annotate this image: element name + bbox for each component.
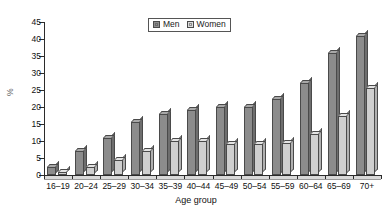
x-tick-label-50-54: 50–54 (243, 182, 267, 191)
x-tick-mark (213, 175, 214, 179)
bar-women-50-54 (254, 144, 263, 175)
bar-men-45-49 (216, 107, 225, 175)
bar-face (187, 110, 196, 175)
y-tick-label: 20 (32, 103, 41, 112)
y-axis-title: % (6, 88, 15, 96)
bar-face (75, 151, 84, 175)
bar-group-16-19 (44, 22, 72, 175)
x-tick-mark (72, 175, 73, 179)
bar-face (216, 107, 225, 175)
bar-group-65-69 (325, 22, 353, 175)
bar-face (170, 141, 179, 175)
x-tick-label-16-19: 16–19 (46, 182, 70, 191)
bar-face (198, 141, 207, 175)
x-tick-label-55-59: 55–59 (271, 182, 295, 191)
bar-men-50-54 (244, 107, 253, 175)
x-tick-label-65-69: 65–69 (327, 182, 351, 191)
bar-women-70+ (366, 88, 375, 175)
x-tick-label-40-44: 40–44 (187, 182, 211, 191)
x-tick-mark (297, 175, 298, 179)
y-tick-label: 5 (36, 154, 41, 163)
bar-face (254, 144, 263, 175)
bar-side (319, 128, 322, 172)
bar-men-40-44 (187, 110, 196, 175)
bar-women-25-29 (114, 160, 123, 175)
x-tick-mark (128, 175, 129, 179)
x-tick-mark (325, 175, 326, 179)
bar-face (310, 134, 319, 175)
x-tick-mark (381, 175, 382, 179)
plot-area: 051015202530354045 16–1920–2425–2930–343… (44, 22, 381, 175)
bar-face (159, 114, 168, 175)
bar-top (272, 96, 284, 99)
bar-men-35-39 (159, 114, 168, 175)
bar-face (338, 116, 347, 176)
x-tick-mark (353, 175, 354, 179)
x-tick-label-30-34: 30–34 (130, 182, 154, 191)
bar-face (103, 138, 112, 175)
bar-face (282, 143, 291, 175)
bar-group-20-24 (72, 22, 100, 175)
bar-face (58, 172, 67, 175)
bar-face (356, 36, 365, 175)
bar-men-25-29 (103, 138, 112, 175)
bar-group-70+ (353, 22, 381, 175)
bar-men-65-69 (328, 53, 337, 175)
y-tick-label: 25 (32, 86, 41, 95)
x-axis-title: Age group (0, 196, 392, 205)
bar-top (86, 164, 98, 167)
bar-face (300, 83, 309, 175)
bar-chart: Men Women % 051015202530354045 16–1920–2… (0, 0, 392, 218)
x-tick-mark (100, 175, 101, 179)
bar-women-60-64 (310, 134, 319, 175)
bar-men-30-34 (131, 122, 140, 175)
y-tick-label: 30 (32, 69, 41, 78)
x-tick-label-20-24: 20–24 (74, 182, 98, 191)
bar-women-16-19 (58, 172, 67, 175)
bar-face (272, 99, 281, 176)
bar-women-45-49 (226, 144, 235, 175)
bar-men-60-64 (300, 83, 309, 175)
bar-face (131, 122, 140, 175)
bar-men-70+ (356, 36, 365, 175)
bar-group-30-34 (128, 22, 156, 175)
x-tick-label-35-39: 35–39 (159, 182, 183, 191)
bar-women-65-69 (338, 116, 347, 176)
bar-side (347, 110, 350, 173)
bar-top (58, 169, 70, 172)
x-tick-label-25-29: 25–29 (102, 182, 126, 191)
x-tick-mark (269, 175, 270, 179)
bar-women-30-34 (142, 151, 151, 175)
bar-group-45-49 (213, 22, 241, 175)
bar-men-55-59 (272, 99, 281, 176)
bar-women-55-59 (282, 143, 291, 175)
bar-face (142, 151, 151, 175)
x-tick-mark (156, 175, 157, 179)
bar-face (328, 53, 337, 175)
x-tick-label-70+: 70+ (360, 182, 374, 191)
bar-group-55-59 (269, 22, 297, 175)
x-tick-mark (184, 175, 185, 179)
bar-women-40-44 (198, 141, 207, 175)
bar-face (366, 88, 375, 175)
bar-men-20-24 (75, 151, 84, 175)
bar-men-16-19 (47, 167, 56, 176)
bar-side (375, 82, 378, 172)
bar-women-20-24 (86, 167, 95, 176)
bar-face (114, 160, 123, 175)
bar-face (47, 167, 56, 176)
bar-group-60-64 (297, 22, 325, 175)
y-tick-label: 45 (32, 18, 41, 27)
bar-group-35-39 (156, 22, 184, 175)
bar-women-35-39 (170, 141, 179, 175)
bar-group-50-54 (241, 22, 269, 175)
bar-face (244, 107, 253, 175)
y-tick-label: 0 (36, 171, 41, 180)
y-tick-label: 40 (32, 35, 41, 44)
x-tick-mark (44, 175, 45, 179)
bar-face (86, 167, 95, 176)
y-tick-label: 10 (32, 137, 41, 146)
bar-group-40-44 (184, 22, 212, 175)
bar-face (226, 144, 235, 175)
x-tick-mark (241, 175, 242, 179)
